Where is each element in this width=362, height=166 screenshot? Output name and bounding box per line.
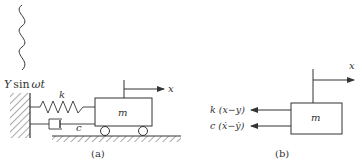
figure-a: Ysinωt k c m x (a) [4, 5, 181, 159]
damper-icon [30, 119, 95, 129]
excitation-label: Ysinωt [4, 78, 45, 91]
caption-a: (a) [91, 148, 105, 159]
damper-label: c [76, 122, 82, 133]
sine-wave-icon [19, 5, 25, 70]
wheel-icon [101, 127, 110, 136]
caption-b: (b) [275, 148, 289, 159]
spring-icon [30, 101, 95, 113]
displacement-label: x [168, 83, 174, 94]
wall [10, 93, 30, 138]
displacement-label: x [349, 60, 355, 71]
ground-hatch [52, 136, 181, 142]
mass-label: m [311, 112, 320, 123]
damper-force-label: c (ẋ−ẏ) [210, 120, 245, 131]
spring-label: k [59, 89, 65, 100]
wheel-icon [139, 127, 148, 136]
free-body-diagram: Ysinωt k c m x (a) m [0, 0, 362, 166]
spring-force-label: k (x−y) [210, 104, 245, 115]
mass-label: m [118, 107, 127, 118]
figure-b: m x k (x−y) c (ẋ−ẏ) (b) [210, 60, 355, 159]
